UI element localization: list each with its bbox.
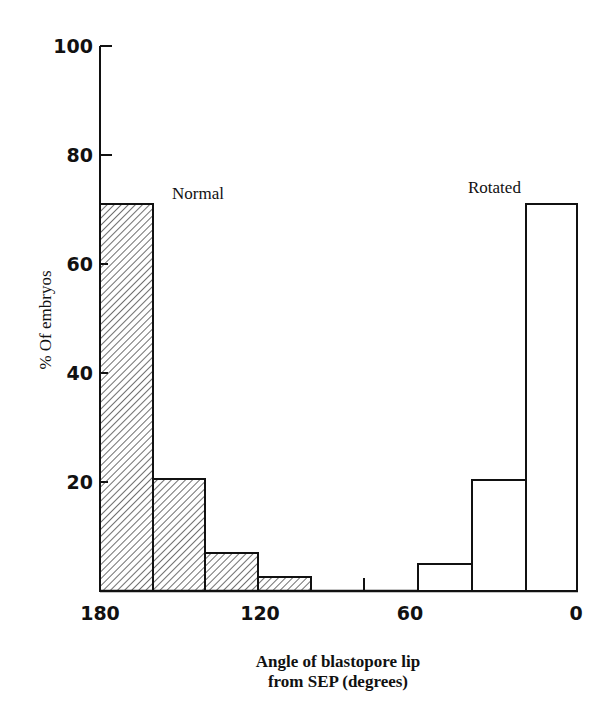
x-tick-180: 180 bbox=[80, 602, 120, 624]
bar-rotated-60-40 bbox=[418, 564, 472, 591]
y-tick-20: 20 bbox=[67, 471, 93, 493]
bar-normal-160-140 bbox=[153, 479, 205, 591]
y-tick-40: 40 bbox=[67, 362, 93, 384]
bar-normal-120-100 bbox=[258, 577, 311, 591]
label-normal: Normal bbox=[172, 184, 224, 203]
bar-normal-180-160 bbox=[100, 204, 153, 591]
x-axis-title-line1: Angle of blastopore lip bbox=[256, 652, 421, 671]
x-axis-title-line2: from SEP (degrees) bbox=[268, 672, 408, 691]
label-rotated: Rotated bbox=[468, 178, 521, 197]
y-tick-80: 80 bbox=[67, 144, 93, 166]
y-axis-title: % Of embryos bbox=[36, 270, 55, 369]
series-rotated bbox=[418, 204, 577, 591]
x-tick-120: 120 bbox=[240, 602, 280, 624]
bar-rotated-20-0 bbox=[526, 204, 577, 591]
series-normal bbox=[100, 204, 364, 591]
x-tick-0: 0 bbox=[569, 602, 582, 624]
bar-normal-140-120 bbox=[205, 553, 258, 591]
y-tick-60: 60 bbox=[67, 253, 93, 275]
x-tick-60: 60 bbox=[397, 602, 423, 624]
histogram-chart: 100 80 60 40 20 Normal Rotated 180 120 6… bbox=[0, 0, 614, 711]
bar-rotated-40-20 bbox=[472, 480, 526, 591]
y-tick-100: 100 bbox=[53, 35, 93, 57]
